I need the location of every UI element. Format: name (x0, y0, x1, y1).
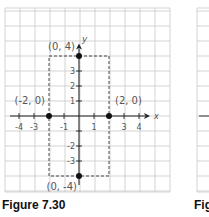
figure-caption: Figure 7.30 (2, 198, 65, 212)
svg-text:4: 4 (136, 123, 141, 132)
svg-text:3: 3 (121, 123, 126, 132)
axes: xy (10, 34, 159, 185)
svg-text:2: 2 (70, 82, 75, 91)
svg-text:x: x (153, 112, 159, 121)
next-figure-caption: Fig (194, 198, 209, 212)
svg-text:-4: -4 (15, 123, 23, 132)
svg-text:y: y (81, 34, 88, 44)
svg-text:-1: -1 (60, 123, 68, 132)
svg-text:1: 1 (91, 123, 96, 132)
svg-text:3: 3 (70, 67, 75, 76)
svg-text:(0, 4): (0, 4) (48, 41, 75, 52)
svg-text:-3: -3 (30, 123, 38, 132)
svg-text:(2, 0): (2, 0) (115, 95, 142, 106)
svg-text:(0, -4): (0, -4) (47, 181, 78, 192)
svg-text:(-2, 0): (-2, 0) (15, 95, 46, 106)
coordinate-plane: xy -4-3-1134321-2-3 (0, 4)(-2, 0)(2, 0)(… (0, 0, 209, 217)
svg-text:1: 1 (70, 97, 75, 106)
next-figure-grid (197, 8, 209, 192)
svg-text:-2: -2 (67, 142, 75, 151)
svg-text:-3: -3 (67, 157, 75, 166)
